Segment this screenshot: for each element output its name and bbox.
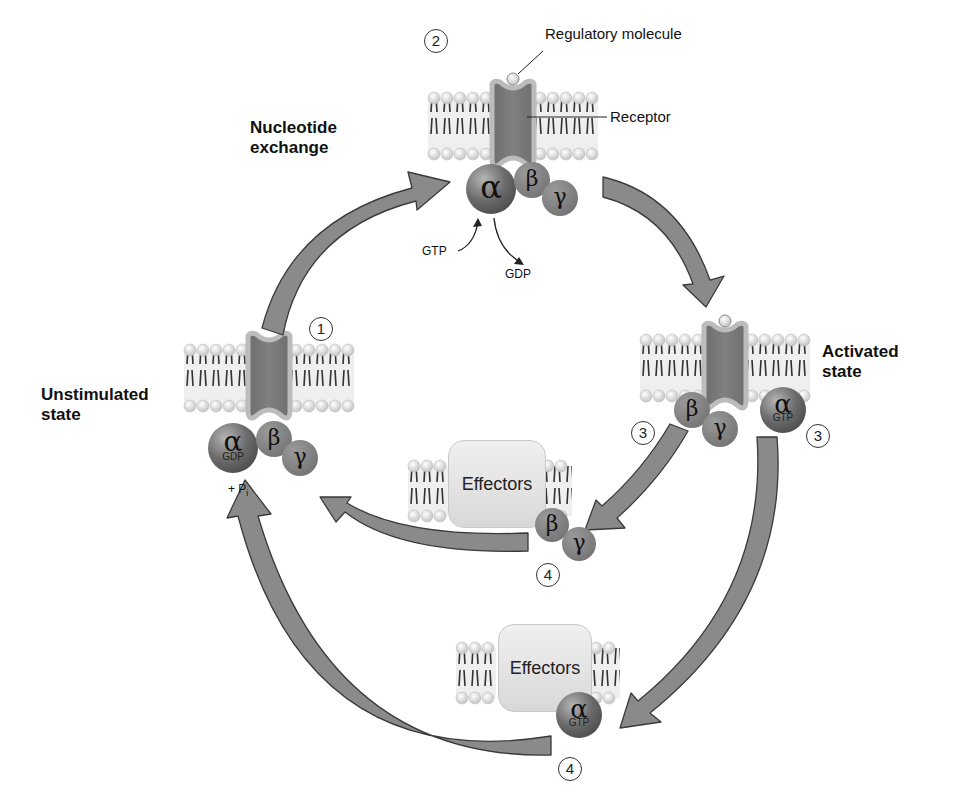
arrow-step-2	[603, 177, 724, 307]
gtp-bound-label: GTP	[556, 717, 602, 728]
step-marker-2: 2	[424, 29, 448, 53]
label-line: Nucleotide	[250, 118, 337, 138]
state-label-nucleotide-exchange: Nucleotide exchange	[250, 118, 337, 158]
step-marker-3-alpha: 3	[806, 424, 830, 448]
gtp-bound-label: GTP	[760, 412, 806, 423]
step-marker-1: 1	[309, 317, 333, 341]
step-marker-3-betagamma: 3	[631, 421, 655, 445]
pi-label: + Pi	[228, 482, 248, 498]
regulatory-molecule-icon	[507, 73, 519, 85]
alpha-subunit-effector: α GTP	[556, 692, 602, 738]
gamma-symbol: γ	[542, 180, 578, 214]
step-marker-4-alpha: 4	[558, 757, 582, 781]
membrane-unstimulated	[184, 333, 354, 418]
gdp-bound-label: GDP	[208, 451, 258, 462]
gamma-subunit-exchange: γ	[542, 180, 578, 216]
gamma-symbol: γ	[562, 527, 596, 559]
gamma-subunit-unstimulated: γ	[282, 440, 318, 476]
gamma-symbol: γ	[702, 411, 738, 445]
regulatory-molecule-label: Regulatory molecule	[545, 25, 682, 42]
alpha-subunit-activated: α GTP	[760, 387, 806, 433]
gtp-label: GTP	[422, 244, 447, 258]
membrane-nucleotide-exchange	[428, 81, 598, 166]
state-label-activated: Activated state	[822, 342, 899, 382]
pi-subscript: i	[246, 488, 248, 498]
alpha-subunit-exchange: α	[466, 164, 516, 214]
gamma-subunit-effector: γ	[562, 527, 596, 561]
effectors-box-betagamma: Effectors	[448, 440, 546, 528]
gdp-out-arrow	[494, 218, 520, 262]
step-marker-4-betagamma: 4	[536, 563, 560, 587]
label-line: state	[41, 405, 149, 425]
gamma-symbol: γ	[282, 440, 318, 474]
gdp-label: GDP	[505, 267, 531, 281]
gamma-subunit-activated: γ	[702, 411, 738, 447]
label-line: exchange	[250, 138, 337, 158]
regulatory-molecule-icon	[719, 315, 731, 327]
regulatory-pointer	[518, 51, 543, 74]
state-label-unstimulated: Unstimulated state	[41, 385, 149, 425]
label-line: state	[822, 362, 899, 382]
label-line: Unstimulated	[41, 385, 149, 405]
label-line: Activated	[822, 342, 899, 362]
receptor-label: Receptor	[610, 108, 671, 125]
pi-text: + P	[228, 482, 246, 496]
alpha-symbol: α	[466, 164, 516, 210]
alpha-subunit-unstimulated: α GDP	[208, 423, 258, 473]
